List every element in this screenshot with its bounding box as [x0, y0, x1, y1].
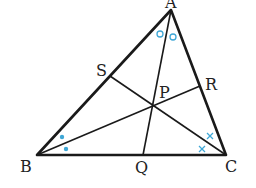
label-q: Q: [135, 158, 148, 177]
label-p: P: [159, 83, 170, 102]
angle-mark-c1-icon: [207, 133, 213, 139]
label-a: A: [164, 0, 177, 12]
label-b: B: [20, 157, 32, 176]
triangle-diagram: A B C P Q R S: [0, 0, 256, 188]
triangle-abc: [37, 10, 226, 155]
angle-mark-b2-icon: [64, 147, 68, 151]
label-r: R: [205, 75, 218, 94]
label-s: S: [96, 61, 107, 80]
angle-mark-b1-icon: [60, 135, 64, 139]
label-c: C: [225, 157, 237, 176]
angle-mark-a1-icon: [157, 31, 163, 37]
angle-mark-a2-icon: [170, 34, 176, 40]
angle-mark-c2-icon: [199, 146, 205, 152]
